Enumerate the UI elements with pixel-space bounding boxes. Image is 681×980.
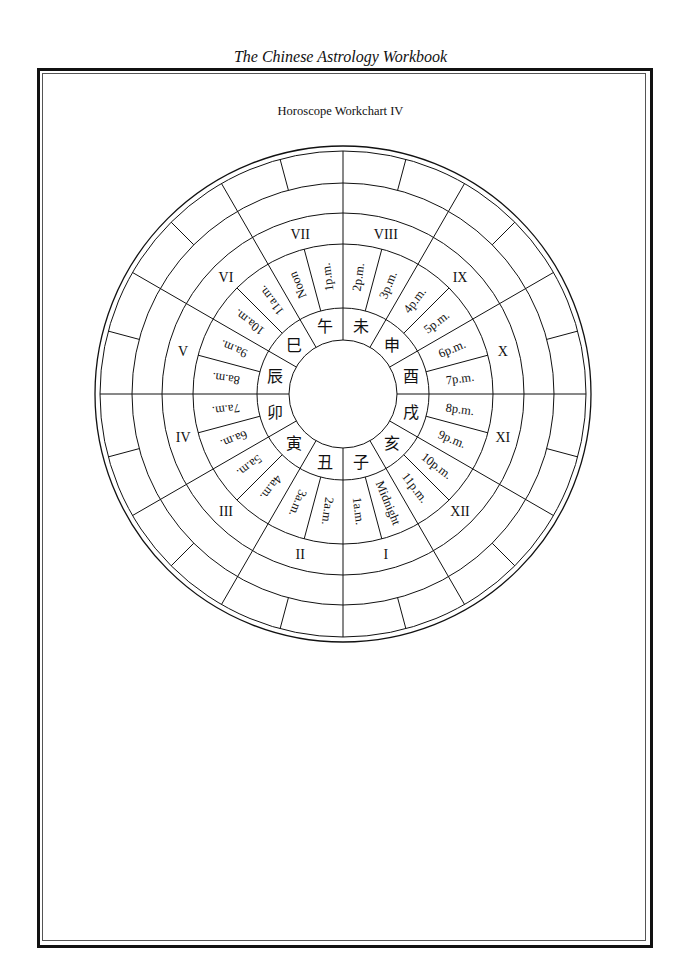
box-divider — [171, 222, 194, 245]
box-divider — [280, 598, 288, 629]
house-numeral: I — [383, 547, 388, 562]
earthly-branch-glyph: 未 — [353, 318, 369, 335]
hour-label: 1p.m. — [319, 262, 337, 292]
earthly-branch-glyph: 戌 — [403, 404, 419, 421]
hour-label: 9a.m. — [218, 337, 249, 361]
hour-divider — [365, 249, 382, 311]
box-divider — [222, 184, 238, 212]
box-divider — [526, 273, 554, 289]
house-numeral: XII — [450, 504, 470, 519]
earthly-branch-glyph: 丑 — [317, 454, 333, 471]
hour-label: 6a.m. — [218, 427, 249, 451]
hour-label: 3a.m. — [286, 488, 310, 519]
hour-divider — [426, 355, 488, 372]
box-divider — [280, 159, 288, 190]
hour-label: 3p.m. — [376, 269, 400, 301]
earthly-branch-glyph: 午 — [317, 318, 333, 335]
box-divider — [526, 500, 554, 516]
house-numeral: IX — [453, 270, 468, 285]
earthly-branch-glyph: 申 — [384, 337, 400, 354]
house-numeral: VI — [219, 270, 234, 285]
hour-divider — [426, 416, 488, 433]
house-numeral: III — [219, 504, 233, 519]
hour-label: 2a.m. — [319, 496, 337, 525]
earthly-branch-glyph: 酉 — [403, 368, 419, 385]
earthly-branch-glyph: 辰 — [267, 368, 283, 385]
hour-label: 7p.m. — [445, 370, 475, 388]
horoscope-wheel: VIIIIXXXIXIIIIIIIIIVVVIVII 未申酉戌亥子丑寅卯辰巳午 … — [0, 0, 681, 980]
house-numeral: VII — [290, 227, 310, 242]
box-divider — [171, 543, 194, 566]
earthly-branch-glyph: 亥 — [384, 435, 400, 452]
box-divider — [449, 184, 465, 212]
earthly-branch-glyph: 卯 — [267, 404, 283, 421]
box-divider — [398, 159, 406, 190]
box-divider — [492, 543, 515, 566]
hour-label: 7a.m. — [211, 401, 240, 419]
hour-label: 5p.m. — [421, 308, 452, 336]
hour-label: 8a.m. — [211, 370, 240, 388]
earthly-branch-glyph: 子 — [353, 454, 369, 471]
wheel-spokes — [100, 151, 586, 637]
house-numeral: XI — [495, 430, 510, 445]
box-divider — [547, 449, 578, 457]
box-divider — [398, 598, 406, 629]
workbook-page: The Chinese Astrology Workbook Horoscope… — [0, 0, 681, 980]
hour-label: 6p.m. — [436, 337, 468, 361]
hour-divider — [198, 355, 260, 372]
box-divider — [547, 331, 578, 339]
hour-divider — [304, 477, 321, 539]
box-divider — [449, 577, 465, 605]
house-numeral: X — [498, 344, 508, 359]
box-divider — [108, 449, 139, 457]
hour-label: 2p.m. — [350, 262, 368, 292]
box-divider — [492, 222, 515, 245]
hour-label: Midnight — [373, 479, 404, 528]
hour-divider — [304, 249, 321, 311]
house-numeral: II — [296, 547, 306, 562]
house-numeral: IV — [176, 430, 191, 445]
hour-label: 4a.m. — [257, 472, 285, 503]
house-numeral: VIII — [374, 227, 398, 242]
earthly-branch-glyph: 寅 — [286, 435, 302, 452]
box-divider — [108, 331, 139, 339]
hour-label: 9p.m. — [436, 427, 468, 451]
box-divider — [222, 577, 238, 605]
hour-label: 5a.m. — [234, 452, 265, 480]
hour-label: 11p.m. — [399, 470, 431, 506]
box-divider — [133, 273, 161, 289]
hour-label: 1a.m. — [350, 496, 368, 525]
box-divider — [133, 500, 161, 516]
hour-label: 4p.m. — [401, 285, 429, 316]
house-numeral: V — [178, 344, 188, 359]
hour-label: 10p.m. — [419, 450, 455, 482]
hour-label: Noon — [286, 269, 310, 301]
hour-label: 8p.m. — [445, 401, 475, 419]
ring-circle — [289, 340, 397, 448]
earthly-branch-glyph: 巳 — [286, 337, 302, 354]
hour-divider — [198, 416, 260, 433]
